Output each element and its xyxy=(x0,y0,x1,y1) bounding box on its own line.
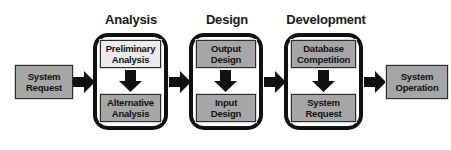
step-box-system-request[interactable]: System Request xyxy=(291,94,356,122)
connector-arrow-design-to-development xyxy=(264,70,286,94)
diagram-canvas: Analysis Design Development System Reque… xyxy=(0,0,451,150)
step-box-input-design[interactable]: Input Design xyxy=(196,94,256,122)
step-line2: Design xyxy=(211,108,241,119)
start-node-system-request[interactable]: System Request xyxy=(15,65,73,99)
step-line1: System xyxy=(307,97,340,108)
internal-arrow-design xyxy=(214,70,237,92)
section-title-development: Development xyxy=(280,12,372,27)
section-title-design: Design xyxy=(190,12,264,27)
step-line2: Analysis xyxy=(112,108,149,119)
step-line1: Preliminary xyxy=(106,43,156,54)
end-node-line1: System xyxy=(401,71,434,82)
end-node-line2: Operation xyxy=(395,82,438,93)
step-box-preliminary-analysis[interactable]: Preliminary Analysis xyxy=(100,40,161,68)
section-title-analysis: Analysis xyxy=(93,12,169,27)
step-line1: Input xyxy=(215,97,237,108)
start-node-line2: Request xyxy=(26,82,62,93)
step-line2: Design xyxy=(211,54,241,65)
step-box-database-competition[interactable]: Database Competition xyxy=(291,40,356,68)
step-line1: Output xyxy=(211,43,241,54)
start-node-line1: System xyxy=(28,71,61,82)
step-line2: Analysis xyxy=(112,54,149,65)
step-line2: Competition xyxy=(297,54,350,65)
step-box-output-design[interactable]: Output Design xyxy=(196,40,256,68)
step-line1: Alternative xyxy=(107,97,154,108)
step-box-alternative-analysis[interactable]: Alternative Analysis xyxy=(100,94,161,122)
step-line1: Database xyxy=(303,43,344,54)
internal-arrow-analysis xyxy=(119,70,142,92)
connector-arrow-analysis-to-design xyxy=(169,70,191,94)
connector-arrow-development-to-end xyxy=(364,70,386,94)
internal-arrow-development xyxy=(312,70,335,92)
connector-arrow-start-to-analysis xyxy=(73,70,95,94)
end-node-system-operation[interactable]: System Operation xyxy=(386,65,448,99)
step-line2: Request xyxy=(305,108,341,119)
